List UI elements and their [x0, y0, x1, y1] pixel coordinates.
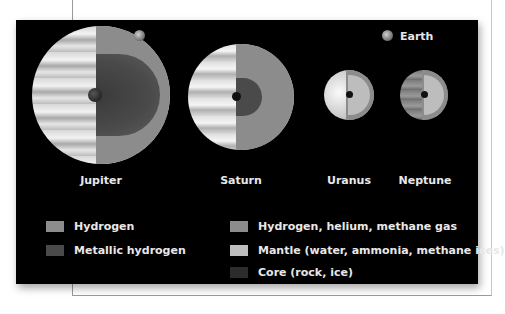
legend-swatch [230, 267, 248, 278]
legend-item-hydrogen: Hydrogen [46, 220, 134, 233]
legend-swatch [46, 221, 64, 232]
earth-icon [134, 30, 145, 41]
legend-label: Mantle (water, ammonia, methane ices) [258, 244, 505, 257]
legend-swatch [46, 245, 64, 256]
legend-item-gas: Hydrogen, helium, methane gas [230, 220, 457, 233]
legend-label: Metallic hydrogen [74, 244, 186, 257]
planet-label-neptune: Neptune [390, 174, 460, 187]
neptune-illustration [400, 70, 448, 120]
legend-item-metallic-hydrogen: Metallic hydrogen [46, 244, 186, 257]
legend-label: Core (rock, ice) [258, 266, 353, 279]
legend-label: Hydrogen, helium, methane gas [258, 220, 457, 233]
legend-swatch [230, 221, 248, 232]
earth-icon [382, 30, 393, 41]
uranus-illustration [324, 70, 374, 120]
legend-item-mantle: Mantle (water, ammonia, methane ices) [230, 244, 505, 257]
earth-label: Earth [400, 30, 433, 43]
planet-label-uranus: Uranus [316, 174, 382, 187]
legend-label: Hydrogen [74, 220, 134, 233]
legend-swatch [230, 245, 248, 256]
saturn-illustration [188, 44, 294, 150]
planet-interior-diagram: Earth Jupiter Saturn Uranus Neptune Hydr… [16, 20, 478, 284]
legend-item-core: Core (rock, ice) [230, 266, 353, 279]
planet-label-jupiter: Jupiter [66, 174, 136, 187]
planet-label-saturn: Saturn [206, 174, 276, 187]
jupiter-illustration [32, 26, 170, 164]
